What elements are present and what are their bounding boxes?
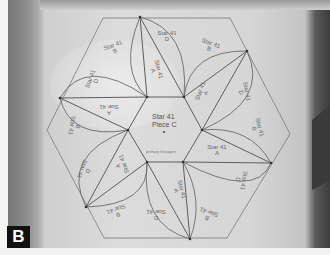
star-diamonds <box>60 17 271 239</box>
panel-label-badge: B <box>7 226 30 248</box>
image-border-bottom <box>0 248 330 255</box>
piece-label-line2: Star 41 <box>98 104 120 110</box>
center-title: Star 41 <box>152 113 175 120</box>
center-piece: Piece C <box>152 121 177 128</box>
piece-label: Star 41A <box>206 144 228 156</box>
piece-label: AStar 41 <box>98 104 120 116</box>
piece-label-line2: A <box>206 150 228 156</box>
background-object <box>312 105 330 190</box>
piece-label-line1: D <box>145 215 167 221</box>
quilt-template-photo: Star 41 Piece C primary hexagon Star 41D… <box>0 0 330 255</box>
piece-label-line2: Star 41 <box>145 209 167 215</box>
petal-arcs <box>60 17 271 239</box>
piece-label-line2: D <box>156 36 178 42</box>
center-caption: primary hexagon <box>146 150 176 154</box>
piece-label: Star 41D <box>156 30 178 42</box>
piece-label: DStar 41 <box>145 209 167 221</box>
piece-label-line1: A <box>98 110 120 116</box>
